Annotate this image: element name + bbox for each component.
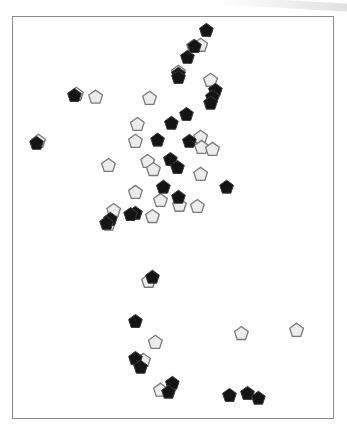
data-point-light	[129, 185, 143, 198]
data-point-light	[194, 167, 208, 180]
data-point-light	[143, 91, 157, 104]
data-point-light	[89, 90, 103, 103]
data-point-dark	[146, 270, 160, 283]
data-point-light	[154, 193, 168, 206]
scatter-chart	[0, 0, 347, 433]
data-point-light	[102, 158, 116, 171]
data-point-dark	[200, 23, 214, 36]
data-point-dark	[165, 116, 179, 129]
data-point-dark	[151, 133, 165, 146]
data-point-light	[191, 199, 205, 212]
data-point-light	[129, 134, 143, 147]
data-point-dark	[157, 180, 171, 193]
data-point-dark	[172, 190, 186, 203]
data-point-light	[131, 117, 145, 130]
data-point-light	[290, 323, 304, 336]
data-point-dark	[129, 314, 143, 327]
data-point-dark	[220, 180, 234, 193]
data-point-light	[149, 335, 163, 348]
data-point-light	[235, 326, 249, 339]
data-point-dark	[223, 388, 237, 401]
data-point-dark	[180, 107, 194, 120]
data-point-light	[146, 210, 160, 223]
